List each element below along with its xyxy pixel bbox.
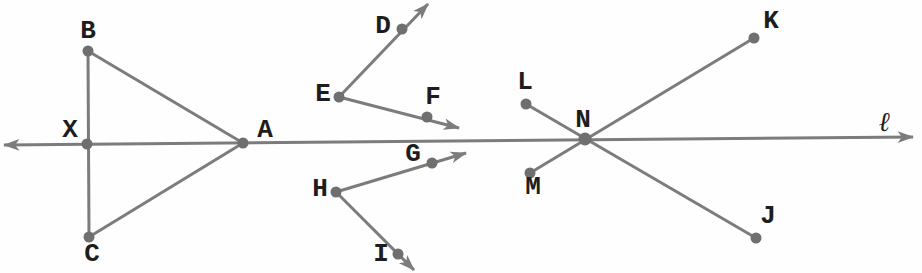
point-F-dot xyxy=(422,112,433,123)
point-X-label: X xyxy=(62,115,78,145)
point-I-dot xyxy=(393,249,404,260)
point-G-label: G xyxy=(405,139,421,169)
point-L-label: L xyxy=(517,67,533,97)
point-F-label: F xyxy=(425,82,441,112)
line-l-label: ℓ xyxy=(878,106,890,137)
point-D-dot xyxy=(397,24,408,35)
point-A-label: A xyxy=(257,115,273,145)
figure-background xyxy=(0,0,922,273)
point-G-dot xyxy=(427,158,438,169)
point-N-label: N xyxy=(575,105,591,135)
point-L-dot xyxy=(521,99,532,110)
point-H-dot xyxy=(331,187,342,198)
point-E-label: E xyxy=(315,79,331,109)
point-A-dot xyxy=(238,138,249,149)
point-I-label: I xyxy=(373,239,389,269)
point-B-label: B xyxy=(80,16,96,46)
geometry-figure: BXCADEFGHILMNKJℓ xyxy=(0,0,922,273)
point-J-label: J xyxy=(760,201,776,231)
point-M-label: M xyxy=(525,172,541,202)
point-K-dot xyxy=(749,33,760,44)
point-K-label: K xyxy=(763,6,779,36)
point-C-label: C xyxy=(84,239,100,269)
point-E-dot xyxy=(334,92,345,103)
diagram-canvas: BXCADEFGHILMNKJℓ xyxy=(0,0,922,273)
point-B-dot xyxy=(83,46,94,57)
point-H-label: H xyxy=(312,174,328,204)
point-D-label: D xyxy=(375,11,391,41)
point-X-dot xyxy=(82,139,93,150)
point-J-dot xyxy=(751,233,762,244)
